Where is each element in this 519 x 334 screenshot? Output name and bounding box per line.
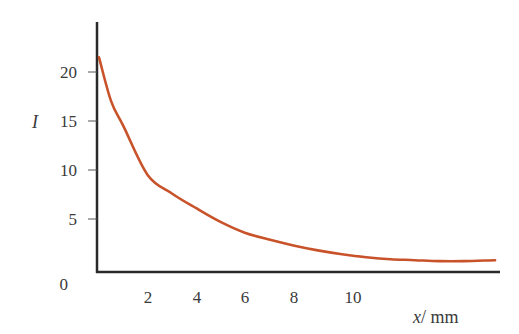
y-axis-label: I [31, 112, 39, 132]
y-tick-label: 15 [60, 112, 77, 131]
y-tick-label: 5 [69, 210, 78, 229]
x-tick-label: 6 [241, 288, 250, 307]
x-axis-label: x/ mm [412, 307, 459, 327]
x-tick-labels: 2 4 6 8 10 [144, 288, 362, 307]
x-tick-label: 8 [290, 288, 299, 307]
x-axis-label-unit: / mm [421, 307, 459, 327]
chart: 20 15 10 5 0 I 2 4 6 8 10 x/ mm [0, 0, 519, 334]
x-tick-label: 2 [144, 288, 153, 307]
y-tick-label: 20 [60, 63, 77, 82]
y-axis [88, 22, 97, 273]
intensity-curve [99, 57, 495, 261]
x-axis-label-var: x [412, 307, 421, 327]
y-tick-labels: 20 15 10 5 0 [60, 63, 78, 294]
y-tick-label: 10 [60, 161, 77, 180]
x-tick-label: 10 [345, 288, 362, 307]
y-tick-label: 0 [60, 275, 69, 294]
x-tick-label: 4 [193, 288, 202, 307]
